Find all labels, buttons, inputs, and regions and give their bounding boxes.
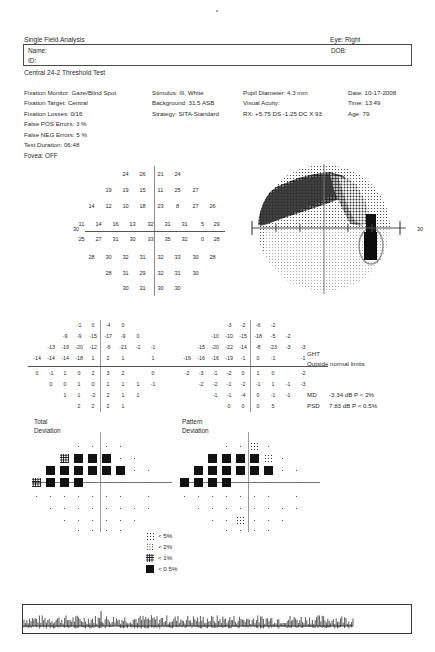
param-line: Date: 10-17-2008 xyxy=(348,88,396,98)
threshold-value: 18 xyxy=(137,203,148,209)
total-deviation-value: 1 xyxy=(131,392,145,398)
td-prob-cell xyxy=(74,526,83,535)
threshold-value: 25 xyxy=(76,236,87,242)
pd-prob-cell xyxy=(250,526,259,535)
threshold-value: 33 xyxy=(172,254,183,260)
total-deviation-value: -4 xyxy=(101,322,115,328)
pattern-deviation-value: -8 xyxy=(251,344,265,350)
threshold-value: 30 xyxy=(155,285,166,291)
total-deviation-value: -9 xyxy=(72,333,86,339)
total-deviation-value: -2 xyxy=(86,392,100,398)
td-prob-cell xyxy=(116,526,125,535)
td-prob-cell xyxy=(144,466,153,475)
total-deviation-value: 1 xyxy=(72,392,86,398)
td-prob-cell xyxy=(32,478,41,487)
pd-prob-cell xyxy=(208,478,217,487)
td-prob-cell xyxy=(74,504,83,513)
pattern-deviation-value: -6 xyxy=(251,322,265,328)
threshold-value: 24 xyxy=(120,171,131,177)
td-prob-cell xyxy=(130,454,139,463)
pd-prob-cell xyxy=(264,442,273,451)
threshold-value: 13 xyxy=(127,221,138,227)
td-prob-cell xyxy=(88,478,97,487)
threshold-value: 32 xyxy=(155,254,166,260)
total-deviation-value: 1 xyxy=(58,392,72,398)
pd-prob-cell xyxy=(208,504,217,513)
pd-prob-cell xyxy=(208,492,217,501)
pd-prob-cell xyxy=(264,504,273,513)
td-prob-cell xyxy=(32,492,41,501)
total-deviation-value: 0 xyxy=(44,381,58,387)
legend-swatch-s1 xyxy=(146,554,154,562)
total-deviation-value: 1 xyxy=(116,381,130,387)
td-prob-cell xyxy=(88,466,97,475)
threshold-value: 30 xyxy=(190,254,201,260)
pd-prob-cell xyxy=(264,516,273,525)
psd-value: 7.83 dB P < 0.5% xyxy=(329,402,377,409)
ght-value: Outside normal limits xyxy=(307,359,365,369)
name-label: Name: xyxy=(28,47,47,54)
total-deviation-value: -12 xyxy=(86,344,100,350)
pattern-deviation-value: -1 xyxy=(251,381,265,387)
pd-prob-cell xyxy=(292,478,301,487)
total-deviation-value: 1 xyxy=(131,381,145,387)
td-prob-cell xyxy=(144,504,153,513)
psd-label: PSD xyxy=(307,401,329,412)
pd-prob-cell xyxy=(250,492,259,501)
pattern-deviation-value: -16 xyxy=(208,355,222,361)
pd-prob-cell xyxy=(236,526,245,535)
fovea-status: Fovea: OFF xyxy=(24,152,58,159)
pattern-deviation-value: -16 xyxy=(180,355,194,361)
param-line: Test Duration: 06:48 xyxy=(24,140,116,150)
pd-prob-cell xyxy=(264,526,273,535)
td-prob-cell xyxy=(144,492,153,501)
psd-row: PSD7.83 dB P < 0.5% xyxy=(307,401,377,412)
pd-horizontal-axis xyxy=(178,366,328,367)
legend-label: < 1% xyxy=(158,554,172,561)
td-prob-cell xyxy=(74,516,83,525)
pattern-deviation-value: 1 xyxy=(251,370,265,376)
md-label: MD xyxy=(307,390,329,401)
pattern-deviation-value: -19 xyxy=(222,355,236,361)
total-deviation-value: -6 xyxy=(101,344,115,350)
threshold-value: 12 xyxy=(103,203,114,209)
pd-prob-cell xyxy=(194,492,203,501)
pd-prob-cell xyxy=(264,478,273,487)
pd-prob-cell xyxy=(194,478,203,487)
threshold-value: 26 xyxy=(207,203,218,209)
params-column-fixation: Fixation Monitor: Gaze/Blind SpotFixatio… xyxy=(24,88,116,150)
td-prob-cell xyxy=(116,516,125,525)
total-deviation-value: -1 xyxy=(146,344,160,350)
total-deviation-value: 1 xyxy=(86,355,100,361)
pattern-deviation-value: -20 xyxy=(208,344,222,350)
eye-label: Eye: Right xyxy=(330,36,360,43)
pattern-deviation-value: -1 xyxy=(266,392,280,398)
total-deviation-value: 2 xyxy=(101,392,115,398)
total-deviation-value: -18 xyxy=(72,355,86,361)
pd-prob-cell xyxy=(208,516,217,525)
td-prob-cell xyxy=(46,466,55,475)
threshold-value: 28 xyxy=(207,254,218,260)
dob-label: DOB: xyxy=(331,47,347,54)
td-prob-cell xyxy=(74,466,83,475)
pd-prob-cell xyxy=(222,504,231,513)
td-prob-cell xyxy=(116,442,125,451)
param-line: Visual Acuity: xyxy=(243,98,322,108)
threshold-value: 32 xyxy=(120,254,131,260)
pattern-deviation-value: -10 xyxy=(208,333,222,339)
pattern-deviation-value: -3 xyxy=(296,381,310,387)
pd-prob-cell xyxy=(264,466,273,475)
pattern-deviation-probability-plot xyxy=(180,432,320,532)
pattern-deviation-value: -2 xyxy=(296,370,310,376)
param-line: Strategy: SITA-Standard xyxy=(152,109,219,119)
param-line: False NEG Errors: 5 % xyxy=(24,130,116,140)
pattern-deviation-value: -1 xyxy=(222,381,236,387)
threshold-value: 25 xyxy=(172,187,183,193)
pattern-deviation-value: 0 xyxy=(222,403,236,409)
pattern-deviation-value: -2 xyxy=(194,381,208,387)
td-prob-cell xyxy=(102,526,111,535)
total-deviation-value: -17 xyxy=(101,333,115,339)
pd-prob-cell xyxy=(194,466,203,475)
threshold-value: 27 xyxy=(190,187,201,193)
threshold-value: 35 xyxy=(162,236,173,242)
